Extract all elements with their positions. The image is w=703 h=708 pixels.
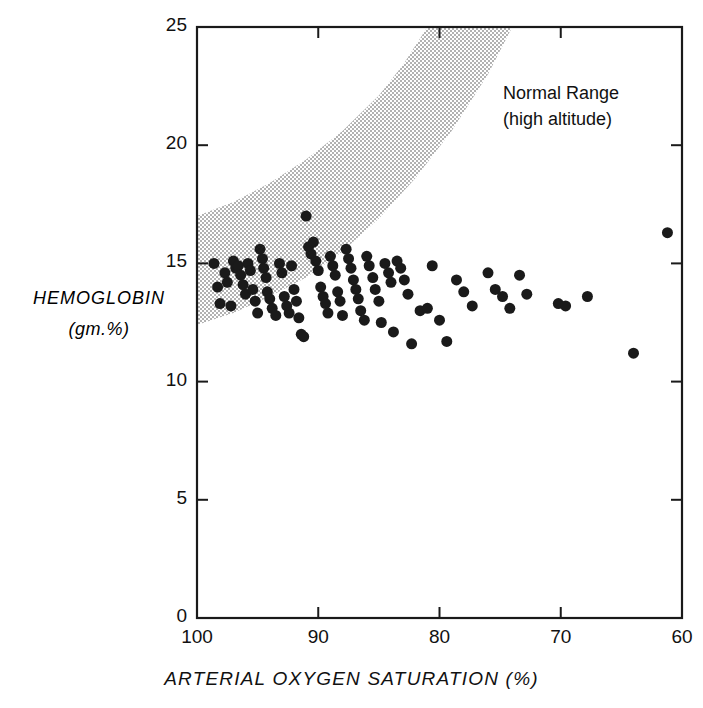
normal-range-annotation: Normal Range (high altitude) <box>503 80 619 132</box>
data-point <box>298 331 309 342</box>
data-point <box>422 303 433 314</box>
data-point <box>441 336 452 347</box>
x-axis-tick-label: 90 <box>278 626 358 648</box>
x-axis-tick-label: 100 <box>157 626 237 648</box>
x-axis-tick-label: 60 <box>642 626 703 648</box>
data-point <box>238 279 249 290</box>
data-point <box>255 244 266 255</box>
x-axis-tick-label: 80 <box>400 626 480 648</box>
data-point <box>386 277 397 288</box>
data-point <box>252 308 263 319</box>
data-point <box>284 308 295 319</box>
data-point <box>388 326 399 337</box>
data-point <box>322 308 333 319</box>
data-point <box>235 270 246 281</box>
data-point <box>373 296 384 307</box>
data-point <box>402 289 413 300</box>
y-axis-tick-label: 0 <box>131 605 187 627</box>
data-point <box>258 263 269 274</box>
data-point <box>427 260 438 271</box>
data-point <box>264 293 275 304</box>
data-point <box>315 282 326 293</box>
y-axis-tick-label: 10 <box>131 369 187 391</box>
data-point <box>383 267 394 278</box>
data-point <box>361 251 372 262</box>
normal-range-annotation-line1: Normal Range <box>503 80 619 106</box>
data-point <box>582 291 593 302</box>
data-point <box>343 253 354 264</box>
data-point <box>497 291 508 302</box>
data-point <box>291 296 302 307</box>
x-axis-tick-label: 70 <box>521 626 601 648</box>
data-point <box>325 251 336 262</box>
data-point <box>257 253 268 264</box>
hemoglobin-vs-oxygen-saturation-figure: HEMOGLOBIN (gm.%) ARTERIAL OXYGEN SATURA… <box>0 0 703 708</box>
data-point <box>247 284 258 295</box>
data-point <box>215 298 226 309</box>
data-point <box>308 237 319 248</box>
y-axis-tick-label: 20 <box>131 132 187 154</box>
data-point <box>451 274 462 285</box>
data-point <box>399 274 410 285</box>
data-point <box>310 256 321 267</box>
x-axis-title: ARTERIAL OXYGEN SATURATION (%) <box>0 668 703 690</box>
data-point <box>289 284 300 295</box>
data-point <box>370 284 381 295</box>
data-point <box>364 260 375 271</box>
data-point <box>662 227 673 238</box>
data-point <box>293 312 304 323</box>
data-point <box>245 265 256 276</box>
y-axis-tick-label: 25 <box>131 14 187 36</box>
data-point <box>521 289 532 300</box>
y-axis-title: HEMOGLOBIN (gm.%) <box>8 288 190 340</box>
data-point <box>355 305 366 316</box>
data-point <box>359 315 370 326</box>
data-point <box>270 310 281 321</box>
normal-range-annotation-line2: (high altitude) <box>503 106 619 132</box>
data-point <box>279 291 290 302</box>
y-axis-title-line1: HEMOGLOBIN <box>8 288 190 309</box>
data-point <box>345 263 356 274</box>
data-point <box>261 272 272 283</box>
data-point <box>514 270 525 281</box>
data-point <box>222 277 233 288</box>
data-point <box>458 286 469 297</box>
data-point <box>504 303 515 314</box>
data-point <box>332 286 343 297</box>
data-point <box>376 317 387 328</box>
data-point <box>286 260 297 271</box>
data-point <box>219 267 230 278</box>
data-point <box>341 244 352 255</box>
data-point <box>330 270 341 281</box>
data-point <box>301 211 312 222</box>
data-point <box>276 267 287 278</box>
y-axis-tick-label: 5 <box>131 487 187 509</box>
data-point <box>348 274 359 285</box>
data-point <box>233 260 244 271</box>
y-axis-tick-label: 15 <box>131 250 187 272</box>
data-point <box>483 267 494 278</box>
data-point <box>250 296 261 307</box>
data-point <box>560 300 571 311</box>
data-point <box>395 263 406 274</box>
data-point <box>434 315 445 326</box>
data-point <box>320 298 331 309</box>
data-point <box>350 284 361 295</box>
data-point <box>337 310 348 321</box>
data-point <box>313 265 324 276</box>
data-point <box>406 338 417 349</box>
data-point <box>225 300 236 311</box>
data-point <box>274 258 285 269</box>
y-axis-title-line2: (gm.%) <box>8 319 190 340</box>
data-point <box>628 348 639 359</box>
data-point <box>379 258 390 269</box>
data-point <box>367 272 378 283</box>
data-point <box>467 300 478 311</box>
data-point <box>212 282 223 293</box>
data-point <box>208 258 219 269</box>
data-point <box>327 260 338 271</box>
data-point <box>335 296 346 307</box>
data-point <box>353 293 364 304</box>
